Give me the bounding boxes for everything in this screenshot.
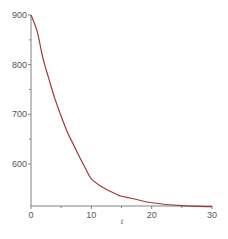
- axes: [31, 15, 212, 206]
- x-tick-label: 20: [147, 210, 157, 220]
- x-tick-label: 30: [207, 210, 217, 220]
- y-tick-label: 900: [12, 10, 27, 20]
- y-tick-label: 700: [12, 109, 27, 119]
- y-tick-label: 600: [12, 159, 27, 169]
- x-tick-label: 0: [28, 210, 33, 220]
- plot-area: [31, 15, 212, 207]
- ticks: 6007008009000102030: [12, 10, 217, 220]
- x-tick-label: 10: [86, 210, 96, 220]
- data-line: [31, 15, 212, 207]
- line-chart: 6007008009000102030 t: [0, 0, 228, 239]
- x-axis-label: t: [121, 216, 124, 226]
- y-tick-label: 800: [12, 60, 27, 70]
